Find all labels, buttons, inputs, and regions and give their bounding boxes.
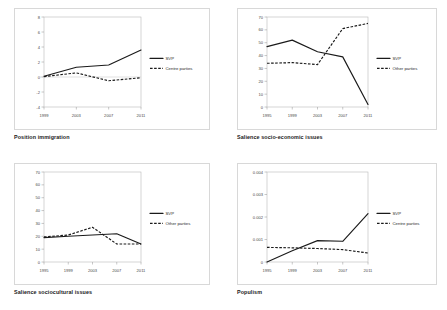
chart-panel-salience-sociocultural: 01020304050607019951999200320072011SVPOt… bbox=[0, 155, 223, 310]
y-tick-label: 4 bbox=[38, 45, 41, 50]
chart-frame-1: 01020304050607019951999200320072011SVPOt… bbox=[237, 8, 437, 130]
y-tick-label: 0.004 bbox=[253, 170, 264, 175]
y-tick-label: 70 bbox=[35, 170, 40, 175]
x-tick-label: 2011 bbox=[364, 113, 374, 118]
y-tick-label: 0 bbox=[261, 260, 264, 265]
y-tick-label: 8 bbox=[38, 15, 41, 20]
y-tick-label: 2 bbox=[38, 60, 41, 65]
x-tick-label: 1999 bbox=[39, 113, 49, 118]
chart-frame-0: -4-2024681999200320072011SVPCentre parti… bbox=[14, 8, 210, 130]
y-tick-label: 20 bbox=[35, 234, 40, 239]
y-tick-label: 70 bbox=[258, 15, 263, 20]
chart-caption-0: Position immigration bbox=[14, 134, 70, 140]
x-tick-label: 2007 bbox=[338, 113, 348, 118]
x-tick-label: 1995 bbox=[39, 268, 49, 273]
y-tick-label: 30 bbox=[35, 221, 40, 226]
chart-frame-2: 01020304050607019951999200320072011SVPOt… bbox=[14, 163, 210, 285]
series-line-svp bbox=[267, 214, 368, 262]
y-tick-label: 0 bbox=[261, 105, 264, 110]
x-tick-label: 1995 bbox=[262, 268, 272, 273]
legend-label-svp: SVP bbox=[393, 56, 402, 61]
chart-caption-3: Populism bbox=[237, 289, 262, 295]
chart-caption-2: Salience sociocultural issues bbox=[14, 289, 92, 295]
chart-canvas-2: 01020304050607019951999200320072011SVPOt… bbox=[15, 164, 209, 284]
y-tick-label: 0.003 bbox=[253, 192, 264, 197]
y-tick-label: 30 bbox=[258, 66, 263, 71]
chart-svg-position-immigration: -4-2024681999200320072011SVPCentre parti… bbox=[15, 9, 209, 129]
x-tick-label: 1999 bbox=[288, 268, 298, 273]
y-tick-label: 50 bbox=[35, 195, 40, 200]
legend-label-svp: SVP bbox=[166, 211, 175, 216]
x-tick-label: 2003 bbox=[72, 113, 82, 118]
x-tick-label: 1995 bbox=[262, 113, 272, 118]
chart-svg-salience-sociocultural-issues: 01020304050607019951999200320072011SVPOt… bbox=[15, 164, 209, 284]
chart-canvas-3: 00.0010.0020.0030.0041995199920032007201… bbox=[238, 164, 436, 284]
y-tick-label: 0.001 bbox=[253, 237, 264, 242]
legend-label-svp: SVP bbox=[393, 211, 402, 216]
series-line-other-parties bbox=[44, 227, 141, 244]
figure-grid: -4-2024681999200320072011SVPCentre parti… bbox=[0, 0, 447, 310]
series-line-svp bbox=[44, 50, 141, 76]
x-tick-label: 1999 bbox=[64, 268, 74, 273]
plot-frame bbox=[44, 17, 141, 107]
chart-svg-populism: 00.0010.0020.0030.0041995199920032007201… bbox=[238, 164, 436, 284]
legend-label-centre-parties: Centre parties bbox=[393, 221, 420, 226]
y-tick-label: 20 bbox=[258, 79, 263, 84]
legend-label-centre-parties: Centre parties bbox=[166, 66, 193, 71]
x-tick-label: 2003 bbox=[313, 268, 323, 273]
y-tick-label: 6 bbox=[38, 30, 41, 35]
chart-panel-position-immigration: -4-2024681999200320072011SVPCentre parti… bbox=[0, 0, 223, 155]
chart-svg-salience-socio-economic-issues: 01020304050607019951999200320072011SVPOt… bbox=[238, 9, 436, 129]
x-tick-label: 1999 bbox=[288, 113, 298, 118]
legend-label-svp: SVP bbox=[166, 56, 175, 61]
x-tick-label: 2007 bbox=[112, 268, 122, 273]
plot-frame bbox=[267, 17, 368, 107]
y-tick-label: 0 bbox=[38, 260, 41, 265]
legend-label-other-parties: Other parties bbox=[393, 66, 418, 71]
x-tick-label: 2011 bbox=[137, 268, 147, 273]
legend-label-other-parties: Other parties bbox=[166, 221, 191, 226]
y-tick-label: 50 bbox=[258, 40, 263, 45]
x-tick-label: 2007 bbox=[338, 268, 348, 273]
y-tick-label: 40 bbox=[258, 53, 263, 58]
chart-panel-populism: 00.0010.0020.0030.0041995199920032007201… bbox=[223, 155, 447, 310]
y-tick-label: 10 bbox=[35, 247, 40, 252]
y-tick-label: 60 bbox=[258, 27, 263, 32]
x-tick-label: 2003 bbox=[313, 113, 323, 118]
x-tick-label: 2011 bbox=[364, 268, 374, 273]
chart-canvas-1: 01020304050607019951999200320072011SVPOt… bbox=[238, 9, 436, 129]
chart-canvas-0: -4-2024681999200320072011SVPCentre parti… bbox=[15, 9, 209, 129]
chart-panel-salience-socio-economic: 01020304050607019951999200320072011SVPOt… bbox=[223, 0, 447, 155]
chart-frame-3: 00.0010.0020.0030.0041995199920032007201… bbox=[237, 163, 437, 285]
series-line-centre-parties bbox=[267, 247, 368, 253]
y-tick-label: 0.002 bbox=[253, 215, 264, 220]
series-line-svp bbox=[267, 40, 368, 104]
chart-caption-1: Salience socio-economic issues bbox=[237, 134, 323, 140]
y-tick-label: 10 bbox=[258, 92, 263, 97]
y-tick-label: -2 bbox=[36, 90, 40, 95]
series-line-other-parties bbox=[267, 23, 368, 64]
x-tick-label: 2003 bbox=[88, 268, 98, 273]
plot-frame bbox=[44, 172, 141, 262]
y-tick-label: 40 bbox=[35, 208, 40, 213]
x-tick-label: 2011 bbox=[137, 113, 147, 118]
x-tick-label: 2007 bbox=[104, 113, 114, 118]
y-tick-label: -4 bbox=[36, 105, 40, 110]
y-tick-label: 60 bbox=[35, 182, 40, 187]
